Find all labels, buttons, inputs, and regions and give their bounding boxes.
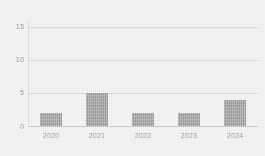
x-tick-label-2020: 2020 (31, 132, 71, 139)
x-axis-tick-labels: 20202021202220232024 (0, 0, 265, 156)
x-tick-label-2023: 2023 (169, 132, 209, 139)
bar-chart: 15 10 5 0 20202021202220232024 (0, 0, 265, 156)
x-tick-label-2022: 2022 (123, 132, 163, 139)
x-tick-label-2024: 2024 (215, 132, 255, 139)
x-tick-label-2021: 2021 (77, 132, 117, 139)
